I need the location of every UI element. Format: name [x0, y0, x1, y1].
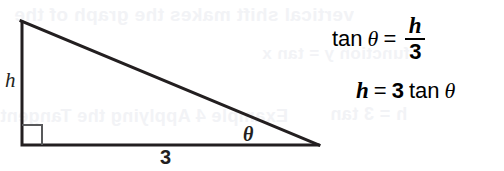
equations-group: tan θ = h 3 h = 3 tan θ [330, 6, 504, 118]
theta-symbol: θ [445, 78, 456, 104]
equals-operator: = [378, 26, 401, 52]
right-triangle-tangent-figure: vertical shift makes the graph of the fu… [0, 0, 504, 171]
right-angle-marker-icon [22, 125, 42, 145]
tan-function-label: tan [409, 78, 440, 104]
h-solved-equation: h = 3 tan θ [356, 78, 455, 104]
fraction-numerator: h [406, 14, 425, 38]
triangle-hypotenuse [21, 21, 319, 145]
theta-symbol: θ [368, 26, 379, 52]
opposite-side-label: h [5, 68, 16, 93]
h-over-3-fraction: h 3 [405, 14, 425, 63]
tan-theta-equation: tan θ = h 3 [332, 14, 425, 63]
equals-operator: = [369, 78, 392, 104]
adjacent-side-label: 3 [160, 146, 171, 169]
tan-function-label: tan [332, 26, 363, 52]
angle-theta-label: θ [243, 123, 253, 146]
coefficient-three: 3 [392, 78, 404, 104]
h-variable-symbol: h [356, 78, 369, 104]
fraction-denominator: 3 [406, 40, 424, 63]
